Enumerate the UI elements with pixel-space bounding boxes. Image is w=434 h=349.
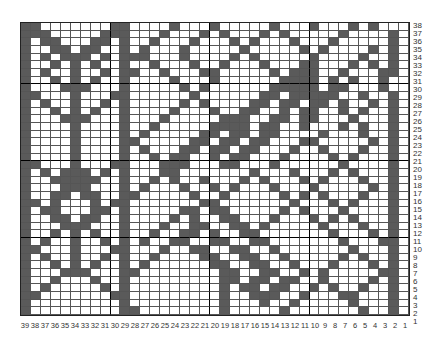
grid-cell: [250, 84, 260, 92]
grid-cell: [41, 230, 51, 238]
grid-cell: [21, 200, 31, 208]
grid-cell: [260, 138, 270, 146]
grid-cell: [329, 84, 339, 92]
grid-cell: [51, 131, 61, 139]
grid-cell: [150, 246, 160, 254]
grid-cell: [290, 246, 300, 254]
grid-cell: [130, 284, 140, 292]
grid-cell: [300, 108, 310, 116]
grid-cell: [230, 115, 240, 123]
grid-cell: [41, 154, 51, 162]
grid-cell: [210, 261, 220, 269]
grid-cell: [300, 261, 310, 269]
grid-cell: [111, 92, 121, 100]
grid-cell: [270, 161, 280, 169]
grid-cell: [180, 192, 190, 200]
grid-cell: [91, 200, 101, 208]
grid-cell: [210, 23, 220, 31]
grid-cell: [379, 138, 389, 146]
grid-cell: [300, 131, 310, 139]
grid-cell: [210, 184, 220, 192]
grid-cell: [91, 230, 101, 238]
grid-cell: [290, 108, 300, 116]
grid-cell: [140, 23, 150, 31]
grid-cell: [31, 61, 41, 69]
grid-cell: [190, 230, 200, 238]
grid-cell: [319, 230, 329, 238]
grid-cell: [230, 200, 240, 208]
grid-cell: [290, 292, 300, 300]
grid-cell: [51, 238, 61, 246]
grid-cell: [190, 146, 200, 154]
grid-cell: [130, 115, 140, 123]
grid-cell: [170, 61, 180, 69]
grid-cell: [101, 246, 111, 254]
grid-cell: [220, 184, 230, 192]
grid-cell: [349, 192, 359, 200]
grid-cell: [359, 246, 369, 254]
grid-cell: [170, 154, 180, 162]
grid-cell: [180, 230, 190, 238]
grid-cell: [310, 23, 320, 31]
grid-cell: [260, 69, 270, 77]
grid-cell: [130, 154, 140, 162]
row-label: 1: [413, 318, 434, 326]
grid-cell: [41, 84, 51, 92]
grid-cell: [319, 138, 329, 146]
grid-cell: [369, 292, 379, 300]
grid-cell: [210, 215, 220, 223]
grid-cell: [240, 38, 250, 46]
grid-cell: [379, 100, 389, 108]
grid-cell: [280, 69, 290, 77]
grid-cell: [130, 300, 140, 308]
grid-cell: [101, 277, 111, 285]
grid-cell: [150, 230, 160, 238]
grid-cell: [180, 146, 190, 154]
grid-cell: [319, 77, 329, 85]
grid-cell: [140, 31, 150, 39]
grid-cell: [61, 23, 71, 31]
grid-cell: [349, 230, 359, 238]
grid-cell: [140, 261, 150, 269]
grid-cell: [160, 115, 170, 123]
grid-cell: [369, 261, 379, 269]
grid-cell: [71, 238, 81, 246]
grid-cell: [230, 161, 240, 169]
grid-cell: [270, 284, 280, 292]
grid-cell: [369, 177, 379, 185]
grid-cell: [399, 207, 409, 215]
grid-cell: [31, 192, 41, 200]
grid-cell: [71, 138, 81, 146]
grid-cell: [140, 184, 150, 192]
grid-cell: [41, 123, 51, 131]
grid-cell: [61, 77, 71, 85]
grid-cell: [21, 269, 31, 277]
grid-cell: [300, 215, 310, 223]
grid-cell: [190, 207, 200, 215]
grid-cell: [210, 254, 220, 262]
grid-cell: [389, 177, 399, 185]
grid-cell: [379, 230, 389, 238]
grid-cell: [200, 84, 210, 92]
grid-cell: [180, 23, 190, 31]
grid-cell: [310, 177, 320, 185]
grid-cell: [61, 108, 71, 116]
grid-cell: [150, 61, 160, 69]
grid-cell: [210, 238, 220, 246]
grid-cell: [170, 300, 180, 308]
grid-cell: [389, 300, 399, 308]
grid-cell: [21, 254, 31, 262]
grid-cell: [21, 169, 31, 177]
grid-cell: [270, 108, 280, 116]
grid-cell: [260, 84, 270, 92]
grid-cell: [379, 115, 389, 123]
grid-cell: [379, 300, 389, 308]
grid-cell: [170, 207, 180, 215]
grid-cell: [101, 115, 111, 123]
grid-cell: [41, 277, 51, 285]
grid-cell: [339, 261, 349, 269]
grid-cell: [61, 100, 71, 108]
grid-cell: [270, 38, 280, 46]
grid-cell: [41, 115, 51, 123]
grid-cell: [310, 192, 320, 200]
